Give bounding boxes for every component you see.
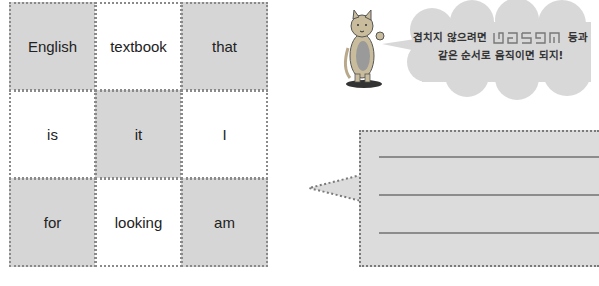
cell-word: English	[28, 38, 77, 55]
answer-line-1[interactable]	[379, 156, 599, 158]
hint-text-line1: 겹치지 않으려면	[413, 31, 487, 43]
hint-text: 겹치지 않으려면 등과 같은 순서로 움직이면 되지!	[410, 28, 591, 64]
answer-line-3[interactable]	[379, 232, 599, 234]
cat-character-icon	[340, 8, 388, 88]
cell-word: that	[212, 38, 237, 55]
grid-cell-am[interactable]: am	[181, 178, 268, 267]
cell-word: is	[47, 126, 58, 143]
grid-cell-textbook[interactable]: textbook	[95, 2, 182, 91]
cell-word: textbook	[110, 38, 167, 55]
grid-cell-that[interactable]: that	[181, 2, 268, 91]
hint-text-line2: 같은 순서로 움직이면 되지!	[410, 46, 591, 64]
cell-word: am	[214, 214, 235, 231]
grid-cell-i[interactable]: I	[181, 90, 268, 179]
word-grid: English textbook that is it I for lookin…	[10, 3, 268, 267]
grid-cell-looking[interactable]: looking	[95, 178, 182, 267]
cell-word: I	[222, 126, 226, 143]
answer-box[interactable]	[359, 130, 599, 267]
grid-cell-it[interactable]: it	[95, 90, 182, 179]
cell-word: looking	[115, 214, 163, 231]
hint-text-line1-end: 등과	[568, 31, 588, 43]
answer-line-2[interactable]	[379, 194, 599, 196]
grid-cell-is[interactable]: is	[9, 90, 96, 179]
cell-word: it	[135, 126, 143, 143]
grid-cell-for[interactable]: for	[9, 178, 96, 267]
grid-cell-english[interactable]: English	[9, 2, 96, 91]
path-pattern-icons	[493, 31, 561, 45]
cell-word: for	[44, 214, 62, 231]
answer-box-pointer	[305, 175, 363, 215]
